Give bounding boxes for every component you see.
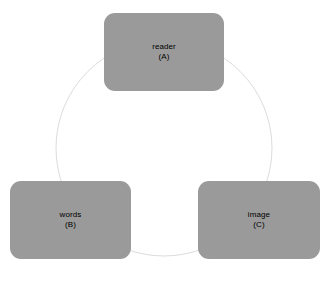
node-reader-label: reader [152,42,176,52]
node-words-label: words [60,210,82,220]
node-image[interactable]: image (C) [198,181,320,259]
diagram-canvas: reader (A) words (B) image (C) [0,0,331,287]
node-reader[interactable]: reader (A) [104,13,224,91]
node-image-tag: (C) [253,220,264,230]
node-reader-tag: (A) [159,52,170,62]
node-words[interactable]: words (B) [10,181,131,259]
node-words-tag: (B) [65,220,76,230]
node-image-label: image [248,210,270,220]
